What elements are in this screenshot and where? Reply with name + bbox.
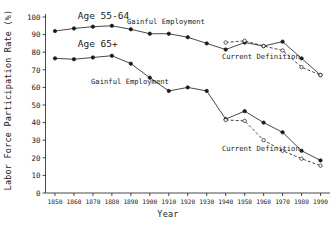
x-tick-label: 1890 bbox=[123, 198, 138, 205]
x-axis-ticks: 1850186018701880189019001910192019301940… bbox=[48, 193, 329, 205]
y-tick-label: 50 bbox=[31, 101, 41, 110]
data-point-marker bbox=[110, 54, 113, 57]
x-tick-label: 1920 bbox=[180, 198, 195, 205]
data-point-marker bbox=[262, 121, 265, 124]
x-tick-label: 1880 bbox=[104, 198, 119, 205]
data-point-marker bbox=[72, 27, 75, 30]
x-tick-label: 1960 bbox=[256, 198, 271, 205]
data-point-marker bbox=[91, 56, 94, 59]
x-tick-label: 1980 bbox=[294, 198, 309, 205]
y-tick-label: 60 bbox=[31, 83, 41, 92]
data-point-marker bbox=[319, 159, 322, 162]
x-tick-label: 1970 bbox=[275, 198, 290, 205]
data-point-marker bbox=[300, 149, 303, 152]
data-point-marker bbox=[129, 62, 132, 65]
x-axis-label: Year bbox=[0, 209, 336, 219]
data-point-marker bbox=[300, 157, 303, 160]
data-point-marker bbox=[300, 57, 303, 60]
data-point-marker bbox=[91, 25, 94, 28]
annotation-label: Current Definition bbox=[222, 52, 300, 61]
data-point-marker bbox=[224, 41, 227, 44]
annotation-label: Current Definition bbox=[222, 144, 300, 153]
x-tick-label: 1900 bbox=[142, 198, 157, 205]
data-point-marker bbox=[53, 57, 56, 60]
y-tick-label: 10 bbox=[31, 171, 41, 180]
y-tick-label: 100 bbox=[27, 13, 41, 22]
annotation-label: Age 55-64 bbox=[78, 10, 130, 21]
data-point-marker bbox=[319, 73, 322, 76]
data-point-marker bbox=[205, 89, 208, 92]
plot-canvas: 0102030405060708090100 18501860187018801… bbox=[0, 0, 336, 226]
data-point-marker bbox=[186, 36, 189, 39]
chart-annotations: Age 55-64Age 65+Gainful EmploymentCurren… bbox=[78, 10, 300, 153]
y-axis-ticks: 0102030405060708090100 bbox=[27, 13, 46, 198]
data-point-marker bbox=[243, 109, 246, 112]
chart-figure: Labor Force Participation Rate (%) 01020… bbox=[0, 0, 336, 226]
data-point-marker bbox=[224, 48, 227, 51]
y-tick-label: 0 bbox=[36, 189, 41, 198]
data-point-marker bbox=[243, 119, 246, 122]
data-point-marker bbox=[262, 44, 265, 47]
x-tick-label: 1940 bbox=[218, 198, 233, 205]
y-tick-label: 80 bbox=[31, 48, 41, 57]
x-tick-label: 1850 bbox=[48, 198, 63, 205]
x-tick-label: 1860 bbox=[66, 198, 81, 205]
data-point-marker bbox=[167, 89, 170, 92]
y-tick-label: 90 bbox=[31, 30, 41, 39]
data-point-marker bbox=[205, 42, 208, 45]
data-point-marker bbox=[281, 131, 284, 134]
x-tick-label: 1910 bbox=[161, 198, 176, 205]
x-tick-label: 1870 bbox=[85, 198, 100, 205]
data-point-marker bbox=[319, 164, 322, 167]
data-point-marker bbox=[167, 32, 170, 35]
data-point-marker bbox=[129, 28, 132, 31]
data-point-marker bbox=[262, 139, 265, 142]
x-tick-label: 1990 bbox=[313, 198, 328, 205]
x-tick-label: 1930 bbox=[199, 198, 214, 205]
annotation-label: Gainful Employment bbox=[127, 17, 205, 26]
y-tick-label: 40 bbox=[31, 118, 41, 127]
data-point-marker bbox=[300, 65, 303, 68]
data-point-marker bbox=[186, 86, 189, 89]
annotation-label: Age 65+ bbox=[78, 38, 118, 49]
x-tick-label: 1950 bbox=[237, 198, 252, 205]
data-point-marker bbox=[243, 39, 246, 42]
data-point-marker bbox=[224, 118, 227, 121]
y-tick-label: 70 bbox=[31, 66, 41, 75]
annotation-label: Gainful Employment bbox=[91, 77, 169, 86]
y-tick-label: 30 bbox=[31, 136, 41, 145]
data-point-marker bbox=[148, 32, 151, 35]
y-tick-label: 20 bbox=[31, 154, 41, 163]
data-point-marker bbox=[53, 29, 56, 32]
data-point-marker bbox=[281, 40, 284, 43]
data-point-marker bbox=[110, 24, 113, 27]
data-point-marker bbox=[72, 58, 75, 61]
